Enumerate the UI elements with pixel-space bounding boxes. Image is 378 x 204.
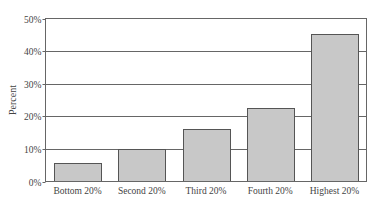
y-tick-label: 20% [24,112,42,122]
bar-highest-20 [312,35,359,182]
y-tick-label: 40% [24,47,42,57]
x-tick-label: Bottom 20% [53,186,101,196]
y-tick-label: 50% [24,15,42,25]
x-tick-label: Third 20% [186,186,227,196]
bar-chart: 0%10%20%30%40%50% Bottom 20%Second 20%Th… [0,0,378,204]
x-tick-label: Second 20% [118,186,166,196]
y-axis-title: Percent [7,85,18,115]
bar-fourth-20 [248,109,295,182]
x-axis: Bottom 20%Second 20%Third 20%Fourth 20%H… [53,186,359,196]
x-tick-label: Highest 20% [310,186,359,196]
y-tick-label: 10% [24,145,42,155]
bar-third-20 [184,130,231,182]
x-tick-label: Fourth 20% [248,186,293,196]
y-axis: 0%10%20%30%40%50% [24,15,45,188]
bar-bottom-20 [55,164,102,182]
y-tick-label: 0% [29,178,42,188]
y-tick-label: 30% [24,80,42,90]
bars [55,35,359,182]
bar-second-20 [119,150,166,182]
